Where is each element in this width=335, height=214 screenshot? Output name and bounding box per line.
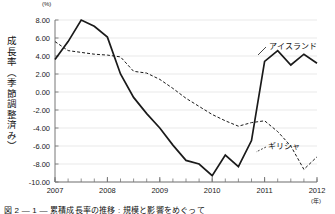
- x-tick-label: 2010: [204, 186, 221, 195]
- figure-caption: 図 2 — 1 — 累積成長率の推移 : 規模と影響をめぐって: [4, 204, 205, 214]
- x-tick-label: 2007: [47, 186, 64, 195]
- y-tick-label: -2.00: [16, 106, 50, 115]
- y-tick-label: 8.00: [16, 16, 50, 25]
- x-tick-label: 2012: [309, 186, 326, 195]
- y-tick-label: 6.00: [16, 34, 50, 43]
- y-tick-label: -6.00: [16, 142, 50, 151]
- x-tick-label: 2011: [257, 186, 273, 195]
- series-label-greece: ギリシャ: [268, 140, 300, 151]
- y-tick-label: 0.00: [16, 88, 50, 97]
- y-tick-label: -10.00: [16, 178, 50, 187]
- x-axis-unit-label: (年): [311, 196, 321, 205]
- x-tick-label: 2008: [99, 186, 116, 195]
- y-tick-label: 4.00: [16, 52, 50, 61]
- x-tick-label: 2009: [151, 186, 168, 195]
- y-axis-title: 成長率（季節調整済み）: [1, 36, 16, 152]
- chart-plot-area: [0, 0, 335, 214]
- x-axis-minor-ticks: [55, 179, 317, 183]
- series-label-iceland: アイスランド: [269, 40, 317, 51]
- chart-figure: (%) 成長率（季節調整済み） 8.006.004.002.000.00-2.0…: [0, 0, 335, 214]
- y-axis-tick-labels: 8.006.004.002.000.00-2.00-4.00-6.00-8.00…: [16, 0, 50, 214]
- y-tick-label: -4.00: [16, 124, 50, 133]
- y-tick-label: 2.00: [16, 70, 50, 79]
- y-tick-label: -8.00: [16, 160, 50, 169]
